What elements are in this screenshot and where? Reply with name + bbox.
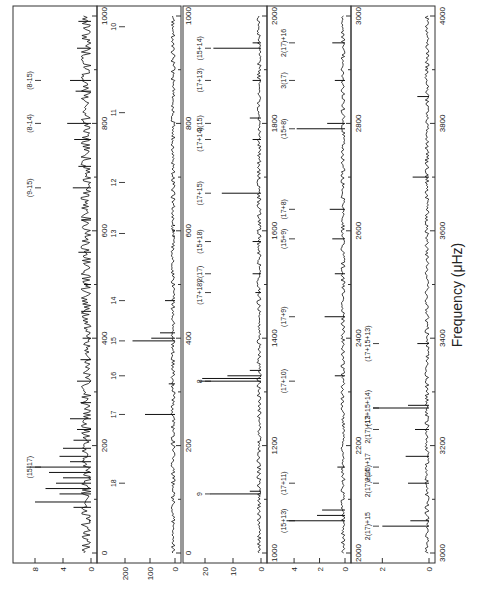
x-tick-label: 2800: [354, 114, 363, 132]
peak-annotation: (17+15+13): [364, 325, 372, 361]
x-tick-label: 4000: [438, 7, 447, 25]
y-tick-label: 0: [425, 566, 434, 571]
x-tick-label: 2000: [354, 544, 363, 562]
y-tick-label: 2: [316, 566, 325, 571]
spectrum-noise: [341, 16, 345, 553]
x-tick-label: 2000: [270, 7, 279, 25]
peak-annotation: 2(15)+17: [364, 453, 372, 481]
peak-annotation: (15+13): [280, 509, 288, 533]
peak-annotation: (15+9): [280, 229, 288, 249]
panel-p5: 300032003400360038004000022(17)+152(17)+…: [351, 6, 447, 571]
panel-p3: 1000120014001600180020000102098(17+18)2(…: [183, 6, 279, 576]
peak-annotation: 12: [110, 178, 117, 186]
y-tick-label: 0: [87, 566, 96, 571]
peak-annotation: 2(17)+16: [280, 29, 288, 57]
x-tick-label: 1000: [270, 544, 279, 562]
x-tick-label: 1000: [184, 7, 193, 25]
peak-annotation: 8: [196, 379, 203, 383]
peak-annotation: (8-14): [26, 114, 34, 133]
y-tick-label: 0: [171, 566, 180, 571]
peak-annotation: (15+8): [280, 119, 288, 139]
peak-annotation: 16: [110, 372, 117, 380]
peak-annotation: (17+8): [280, 199, 288, 219]
x-tick-label: 3200: [438, 436, 447, 454]
y-tick-label: 0: [257, 566, 266, 571]
x-tick-label: 3000: [354, 7, 363, 25]
y-tick-label: 0: [341, 566, 350, 571]
peak-annotation: 10: [110, 23, 117, 31]
peak-annotation: (17+15+14): [364, 390, 372, 426]
peak-annotation: 9: [196, 492, 203, 496]
x-axis-label: Frequency (μHz): [449, 243, 465, 348]
x-tick-label: 2400: [354, 329, 363, 347]
spectrum-figure: 02004006008001000048(15-17)(9-15)(8-14)(…: [0, 0, 489, 591]
y-tick-label: 8: [31, 566, 40, 571]
peak-annotation: 11: [110, 109, 117, 116]
peak-annotation: (17+10): [280, 369, 288, 393]
x-tick-label: 800: [100, 116, 109, 130]
peak-annotation: (17+13): [196, 68, 204, 92]
peak-annotation: 17: [110, 410, 117, 418]
amplitude-spectrum-chart: 02004006008001000048(15-17)(9-15)(8-14)(…: [0, 0, 489, 591]
x-tick-label: 1800: [270, 114, 279, 132]
y-tick-label: 200: [121, 566, 130, 580]
x-tick-label: 600: [100, 224, 109, 238]
peak-annotation: (15-17): [26, 456, 34, 479]
peak-annotation: 2(15): [196, 115, 204, 131]
peak-annotation: (15+18): [196, 229, 204, 253]
peak-annotation: 2(17)+15: [364, 512, 372, 540]
peak-annotation: 2(17): [196, 266, 204, 282]
peak-annotation: 15: [110, 337, 117, 345]
peak-annotation: (8-15): [26, 71, 34, 90]
x-tick-label: 3800: [438, 114, 447, 132]
x-tick-label: 1400: [270, 329, 279, 347]
peak-annotation: (17+11): [280, 471, 288, 495]
y-tick-label: 2: [378, 566, 387, 571]
y-tick-label: 4: [59, 566, 68, 571]
x-tick-label: 600: [184, 224, 193, 238]
x-tick-label: 400: [184, 331, 193, 345]
peak-annotation: (9-15): [26, 178, 34, 197]
y-tick-label: 10: [229, 566, 238, 575]
panel-p1: 02004006008001000048(15-17)(9-15)(8-14)(…: [13, 6, 109, 571]
x-tick-label: 1600: [270, 221, 279, 239]
x-tick-label: 800: [184, 116, 193, 130]
panel-p4: 200022002400260028003000024(15+13)(17+11…: [267, 6, 363, 571]
x-tick-label: 1000: [100, 7, 109, 25]
y-tick-label: 100: [146, 566, 155, 580]
x-tick-label: 400: [100, 331, 109, 345]
peak-annotation: (17+18): [196, 280, 204, 304]
peak-annotation: (17+15): [196, 181, 204, 205]
x-tick-label: 3600: [438, 221, 447, 239]
x-tick-label: 200: [184, 438, 193, 452]
x-tick-label: 2600: [354, 221, 363, 239]
peak-annotation: 3(17): [280, 72, 288, 88]
x-tick-label: 2200: [354, 436, 363, 454]
y-tick-label: 4: [290, 566, 299, 571]
panel-p2: 0200400600800100001002001817161514131211…: [97, 6, 193, 580]
peak-annotation: 14: [110, 297, 117, 305]
x-tick-label: 3000: [438, 544, 447, 562]
peak-annotation: (17+9): [280, 307, 288, 327]
peak-annotation: 18: [110, 479, 117, 487]
peak-annotation: 13: [110, 229, 117, 237]
x-tick-label: 3400: [438, 329, 447, 347]
x-tick-label: 0: [100, 550, 109, 555]
x-tick-label: 200: [100, 438, 109, 452]
x-tick-label: 1200: [270, 436, 279, 454]
spectrum-noise: [257, 16, 261, 553]
peak-annotation: (15+14): [196, 36, 204, 60]
x-tick-label: 0: [184, 550, 193, 555]
y-tick-label: 20: [201, 566, 210, 575]
spectrum-noise: [171, 16, 175, 553]
